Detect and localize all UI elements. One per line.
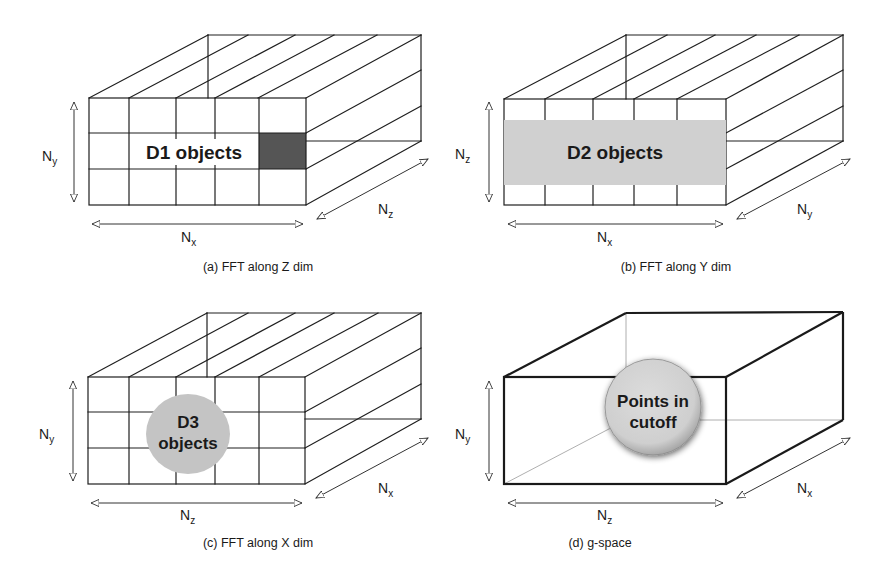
panel-d-caption: (d) g-space (568, 536, 631, 550)
fft-decomposition-figure: D1 objects Ny Nx Nz (a) FFT along Z dim (0, 0, 879, 586)
panel-d-vertical-label: Ny (455, 426, 470, 445)
panel-a-caption: (a) FFT along Z dim (203, 260, 313, 274)
panel-c-object-label-line1: D3 (177, 413, 199, 432)
panel-b-caption: (b) FFT along Y dim (621, 260, 731, 274)
panel-c-side-face (305, 313, 421, 484)
panel-d-horizontal-label: Nz (597, 507, 612, 526)
panel-b-side-face (726, 35, 843, 205)
panel-d-object-label-line1: Points in (617, 392, 689, 411)
panel-b: D2 objects Nz Nx Ny (b) FFT along Y dim (455, 35, 850, 274)
panel-d-depth-label: Nx (797, 480, 812, 499)
panel-a-object-label: D1 objects (146, 142, 242, 163)
panel-c-caption: (c) FFT along X dim (203, 536, 313, 550)
panel-d: Points in cutoff Ny Nz Nx (d) g-space (455, 312, 850, 550)
panel-b-top-face (504, 35, 843, 99)
panel-a-top-face (89, 35, 421, 98)
panel-c-depth-label: Nx (378, 480, 393, 499)
panel-c-horizontal-label: Nz (180, 507, 195, 526)
panel-d-object-label-line2: cutoff (629, 413, 677, 432)
panel-c-top-face (88, 313, 421, 377)
panel-a: D1 objects Ny Nx Nz (a) FFT along Z dim (42, 35, 428, 274)
panel-c-object-label-line2: objects (158, 434, 218, 453)
panel-a-depth-label: Nz (378, 201, 393, 220)
panel-a-horizontal-label: Nx (181, 229, 196, 248)
panel-a-vertical-label: Ny (42, 148, 57, 167)
panel-c: D3 objects Ny Nz Nx (c) FFT along X dim (39, 313, 428, 550)
panel-a-d1-dark-cell (259, 133, 306, 169)
panel-b-depth-label: Ny (797, 201, 812, 220)
panel-b-vertical-label: Nz (455, 146, 470, 165)
panel-b-object-label: D2 objects (567, 142, 663, 163)
panel-a-side-face (306, 35, 421, 205)
panel-b-horizontal-label: Nx (597, 229, 612, 248)
panel-c-vertical-label: Ny (39, 426, 54, 445)
